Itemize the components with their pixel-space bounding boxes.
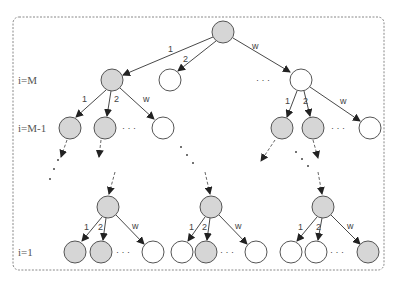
node-b xyxy=(200,196,222,218)
node-m1-c1 xyxy=(59,117,81,139)
m1-edges: 1 2 w xyxy=(76,88,154,119)
edge-label-w: w xyxy=(234,221,242,231)
node-a2 xyxy=(90,241,112,263)
edge-label-1: 1 xyxy=(84,222,89,232)
edge-label-w: w xyxy=(251,41,259,51)
edge-label-2: 2 xyxy=(303,96,308,106)
node-root xyxy=(212,21,234,43)
node-aw xyxy=(142,241,164,263)
subtree-b-edges: 1 2 w xyxy=(188,215,247,244)
node-m-1 xyxy=(101,69,123,91)
edge-label-1: 1 xyxy=(285,96,290,106)
node-bw xyxy=(245,241,267,263)
node-mw-cw xyxy=(359,117,381,139)
ellipsis: · · · xyxy=(330,247,344,257)
level-label-m: i=M xyxy=(18,74,37,86)
edge-label-w: w xyxy=(131,221,139,231)
level-label-m-minus-1: i=M-1 xyxy=(18,122,46,134)
root-edges: 1 2 w xyxy=(123,37,290,75)
subtree-a-edges: 1 2 w xyxy=(82,215,144,244)
node-a xyxy=(97,196,119,218)
subtree-c-edges: 1 2 w xyxy=(297,215,360,244)
ellipsis: · · · xyxy=(116,247,130,257)
edge-label-1: 1 xyxy=(82,94,87,104)
edge-label-1: 1 xyxy=(298,222,303,232)
node-mw-c2 xyxy=(302,117,324,139)
node-c1 xyxy=(280,241,302,263)
node-a1 xyxy=(64,241,86,263)
edge-label-2: 2 xyxy=(202,222,207,232)
ellipsis: · · · xyxy=(122,123,136,133)
edge-label-w: w xyxy=(346,221,354,231)
edge-label-2: 2 xyxy=(183,54,188,64)
node-mw-c1 xyxy=(271,117,293,139)
node-c xyxy=(312,196,334,218)
ellipsis: · · · xyxy=(220,247,234,257)
level-label-1: i=1 xyxy=(18,246,33,258)
node-cw xyxy=(357,241,379,263)
edge-label-2: 2 xyxy=(316,222,321,232)
vertical-ellipsis xyxy=(49,146,309,180)
mw-edges: 1 2 w xyxy=(285,87,360,121)
edge-label-2: 2 xyxy=(114,94,119,104)
edge-label-w: w xyxy=(142,94,150,104)
ellipsis: · · · xyxy=(331,123,345,133)
node-m-w xyxy=(290,69,312,91)
edge-label-w: w xyxy=(339,96,347,106)
nodes xyxy=(59,21,381,263)
node-m1-c2 xyxy=(94,117,116,139)
node-m1-cw xyxy=(152,117,174,139)
node-b1 xyxy=(171,241,193,263)
edge-label-2: 2 xyxy=(98,222,103,232)
edge-label-1: 1 xyxy=(168,44,173,54)
edge-label-1: 1 xyxy=(189,222,194,232)
node-c2 xyxy=(305,241,327,263)
ellipsis: · · · xyxy=(256,75,270,85)
node-m-2 xyxy=(159,69,181,91)
continuation-edges xyxy=(61,140,322,194)
tree-diagram: i=M i=M-1 i=1 1 2 w 1 2 w · · · 1 2 w · … xyxy=(0,0,397,284)
node-b2 xyxy=(195,241,217,263)
